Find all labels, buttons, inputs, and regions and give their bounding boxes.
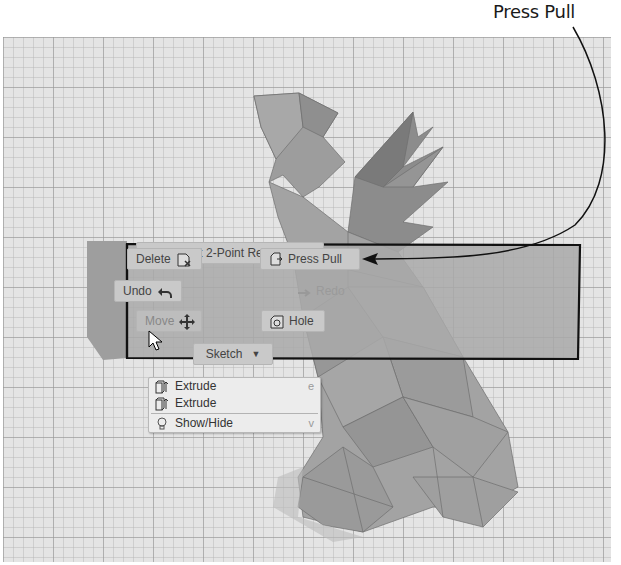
menu-item-extrude-2[interactable]: Extrude — [149, 395, 320, 412]
hole-label: Hole — [289, 310, 314, 332]
overflow-menu: Extrude e Extrude Show/Hide v — [148, 377, 321, 433]
move-button[interactable]: Move — [136, 310, 202, 332]
menu-divider — [151, 413, 318, 414]
delete-icon — [176, 252, 190, 266]
lightbulb-icon — [155, 417, 169, 431]
menu-item-label: Extrude — [175, 378, 216, 395]
shortcut-key: e — [308, 378, 314, 395]
hole-button[interactable]: Hole — [261, 310, 325, 332]
redo-arrow-icon — [297, 284, 311, 298]
menu-item-label: Show/Hide — [175, 415, 233, 432]
hole-icon — [270, 314, 284, 328]
redo-label: Redo — [316, 280, 345, 302]
mouse-cursor-icon — [148, 330, 164, 352]
delete-button[interactable]: Delete — [127, 248, 202, 270]
sketch-label: Sketch — [206, 343, 243, 365]
redo-button[interactable]: Redo — [288, 280, 358, 302]
menu-item-label: Extrude — [175, 395, 216, 412]
extrude-icon — [155, 397, 169, 411]
sketch-dropdown-button[interactable]: Sketch ▼ — [193, 343, 273, 365]
delete-label: Delete — [136, 248, 171, 270]
press-pull-label: Press Pull — [288, 248, 342, 270]
undo-button[interactable]: Undo — [114, 280, 182, 302]
press-pull-button[interactable]: Press Pull — [260, 248, 360, 270]
undo-arrow-icon — [157, 284, 171, 298]
dropdown-arrow-icon: ▼ — [251, 343, 260, 365]
shortcut-key: v — [309, 415, 315, 432]
move-arrows-icon — [179, 314, 193, 328]
menu-item-show-hide[interactable]: Show/Hide v — [149, 415, 320, 432]
extrude-icon — [155, 380, 169, 394]
menu-item-extrude[interactable]: Extrude e — [149, 378, 320, 395]
press-pull-icon — [269, 252, 283, 266]
callout-label: Press Pull — [493, 1, 575, 22]
undo-label: Undo — [123, 280, 152, 302]
move-label: Move — [145, 310, 174, 332]
